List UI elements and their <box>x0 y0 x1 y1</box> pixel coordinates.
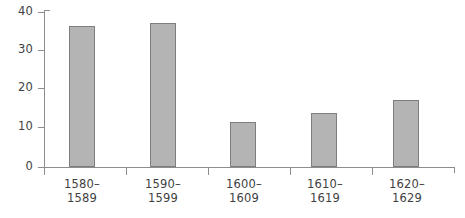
x-label-1580-1589-line1: 1580– <box>39 178 125 192</box>
x-label-1600-1609-line1: 1600– <box>201 178 287 192</box>
x-label-1590-1599: 1590– 1599 <box>120 178 206 205</box>
y-tick-label-30: 30 <box>0 44 33 56</box>
y-tick-label-0: 0 <box>0 161 33 173</box>
plot-area: 40 30 20 10 0 <box>0 0 465 180</box>
bar-1610-1619 <box>311 113 337 167</box>
x-label-1610-1619: 1610– 1619 <box>282 178 368 205</box>
x-tick-0 <box>44 168 45 175</box>
bar-1620-1629 <box>393 100 419 167</box>
x-label-1610-1619-line2: 1619 <box>282 192 368 206</box>
x-label-1620-1629-line1: 1620– <box>364 178 450 192</box>
x-axis-line <box>44 167 455 168</box>
bar-1580-1589 <box>69 26 95 167</box>
x-tick-4 <box>372 168 373 175</box>
x-label-1620-1629-line2: 1629 <box>364 192 450 206</box>
x-label-1600-1609: 1600– 1609 <box>201 178 287 205</box>
x-label-1580-1589-line2: 1589 <box>39 192 125 206</box>
x-label-1590-1599-line1: 1590– <box>120 178 206 192</box>
y-tick-20 <box>38 88 44 89</box>
x-axis-endcap <box>454 167 455 173</box>
x-tick-3 <box>290 168 291 175</box>
bar-1600-1609 <box>230 122 256 167</box>
x-label-1580-1589: 1580– 1589 <box>39 178 125 205</box>
y-tick-10 <box>38 127 44 128</box>
y-tick-40 <box>38 12 44 13</box>
bar-chart: 40 30 20 10 0 1580– 1589 1590– 1599 1600… <box>0 0 465 218</box>
y-tick-label-20: 20 <box>0 82 33 94</box>
x-label-1600-1609-line2: 1609 <box>201 192 287 206</box>
y-tick-30 <box>38 50 44 51</box>
x-label-1590-1599-line2: 1599 <box>120 192 206 206</box>
y-axis-line <box>44 10 45 168</box>
bar-1590-1599 <box>150 23 176 167</box>
y-axis-endcap <box>44 10 50 11</box>
x-tick-2 <box>208 168 209 175</box>
x-tick-1 <box>126 168 127 175</box>
x-label-1620-1629: 1620– 1629 <box>364 178 450 205</box>
y-tick-label-10: 10 <box>0 121 33 133</box>
y-tick-label-40: 40 <box>0 6 33 18</box>
x-label-1610-1619-line1: 1610– <box>282 178 368 192</box>
